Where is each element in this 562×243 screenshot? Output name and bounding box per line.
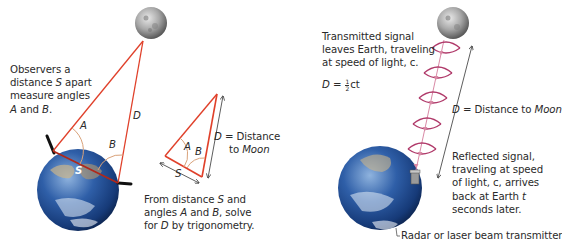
small-distance-label: D = Distance to Moon: [214, 130, 280, 156]
distance-to-moon-label: D = Distance to Moon: [452, 103, 562, 116]
transmitted-description: Transmitted signal leaves Earth, traveli…: [322, 30, 435, 70]
reflected-description: Reflected signal, traveling at speed of …: [452, 150, 543, 216]
earth-right: [338, 146, 422, 230]
small-angle-a-label: A: [184, 140, 191, 153]
small-angle-b-label: B: [195, 145, 202, 158]
transmitter-icon: [410, 170, 420, 184]
small-baseline-s-label: S: [175, 167, 181, 180]
baseline-s-label: S: [75, 164, 82, 177]
transmitter-leader: [396, 228, 397, 236]
distance-formula: D = 12ct: [322, 78, 360, 92]
transmitter-label: Radar or laser beam transmitter: [401, 229, 562, 242]
moon-right: [437, 7, 469, 39]
distance-d-label: D: [133, 109, 141, 122]
angle-b-label: B: [109, 138, 116, 151]
trig-caption: From distance S and angles A and B, solv…: [144, 193, 254, 233]
observers-description: Observers a distance S apart measure ang…: [10, 63, 92, 116]
angle-a-label: A: [80, 119, 87, 132]
moon-left: [135, 7, 167, 39]
earth-left: [37, 136, 131, 231]
